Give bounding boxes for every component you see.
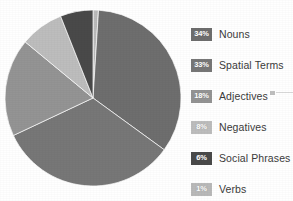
legend-percent: 1%: [196, 185, 206, 193]
pie-chart: [0, 0, 190, 201]
scan-artifact-dash-icon: [276, 92, 293, 93]
legend-label: Nouns: [219, 29, 250, 40]
legend-percent: 8%: [196, 123, 206, 131]
legend-percent: 6%: [196, 154, 206, 162]
legend-label: Verbs: [219, 184, 246, 195]
legend-item: 33%Spatial Terms: [191, 58, 284, 72]
legend-label: Negatives: [219, 122, 267, 133]
legend-swatch: 34%: [191, 28, 212, 41]
scan-artifact-dot-icon: [270, 91, 275, 95]
legend-item: 18%Adjectives: [191, 89, 268, 103]
chart-legend: 34%Nouns33%Spatial Terms18%Adjectives8%N…: [191, 22, 293, 187]
pie-chart-svg: [0, 0, 190, 201]
legend-label: Social Phrases: [219, 153, 290, 164]
legend-item: 34%Nouns: [191, 27, 250, 41]
legend-swatch: 33%: [191, 59, 212, 72]
legend-swatch: 6%: [191, 152, 212, 165]
legend-swatch: 8%: [191, 121, 212, 134]
legend-label: Adjectives: [219, 91, 268, 102]
legend-percent: 18%: [194, 92, 208, 100]
legend-item: 1%Verbs: [191, 182, 246, 196]
legend-swatch: 1%: [191, 183, 212, 196]
legend-label: Spatial Terms: [219, 60, 284, 71]
pie-slice-group: [5, 10, 181, 186]
legend-swatch: 18%: [191, 90, 212, 103]
legend-item: 6%Social Phrases: [191, 151, 290, 165]
legend-item: 8%Negatives: [191, 120, 267, 134]
legend-percent: 33%: [194, 61, 208, 69]
pie-chart-figure: 34%Nouns33%Spatial Terms18%Adjectives8%N…: [0, 0, 293, 201]
legend-percent: 34%: [194, 30, 208, 38]
